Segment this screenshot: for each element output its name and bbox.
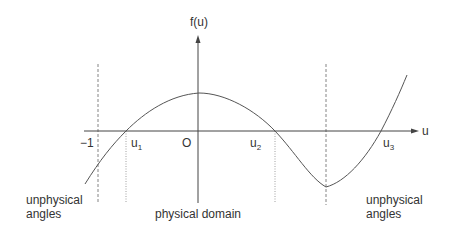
diagram-canvas: f(u) u O −1 u1 u2 u3 unphysical angles p…	[0, 0, 453, 236]
u3-label: u3	[383, 136, 395, 152]
left-region-label-line2: angles	[26, 207, 61, 221]
minus-one-label: −1	[80, 136, 94, 150]
origin-label: O	[182, 136, 191, 150]
left-region-label-line1: unphysical	[26, 193, 83, 207]
u2-label: u2	[250, 136, 262, 152]
center-region-label: physical domain	[155, 207, 241, 221]
right-region-label-line1: unphysical	[366, 193, 423, 207]
f-axis-arrowhead-icon	[196, 35, 201, 43]
u-axis-label: u	[422, 124, 429, 138]
u1-label: u1	[131, 136, 143, 152]
right-region-label-line2: angles	[366, 207, 401, 221]
f-axis-label: f(u)	[190, 15, 208, 29]
u-axis-arrowhead-icon	[411, 129, 419, 134]
